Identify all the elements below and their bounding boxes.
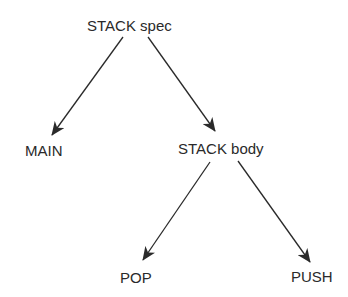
node-push: PUSH [291, 269, 333, 284]
node-stack-spec: STACK spec [87, 18, 172, 33]
edge-stack-spec-to-stack-body [148, 37, 215, 131]
edge-stack-spec-to-main [52, 37, 123, 135]
node-stack-body: STACK body [178, 141, 264, 156]
edge-stack-body-to-pop [143, 162, 210, 260]
node-pop: POP [120, 270, 152, 285]
dependency-tree-diagram: STACK spec MAIN STACK body POP PUSH [0, 0, 348, 297]
node-main: MAIN [25, 143, 63, 158]
edge-stack-body-to-push [238, 161, 310, 262]
